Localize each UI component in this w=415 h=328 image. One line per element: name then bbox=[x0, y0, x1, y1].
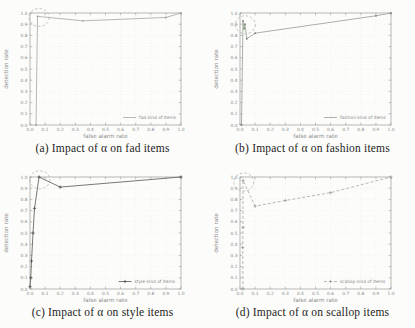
svg-text:false alarm rate: false alarm rate bbox=[293, 297, 338, 303]
svg-text:0.1: 0.1 bbox=[42, 127, 49, 132]
svg-text:0.3: 0.3 bbox=[231, 253, 238, 258]
svg-text:0.8: 0.8 bbox=[231, 33, 238, 38]
caption-c: (c) Impact of α on style items bbox=[0, 306, 205, 318]
svg-text:0.2: 0.2 bbox=[57, 291, 64, 296]
svg-text:0.3: 0.3 bbox=[21, 89, 28, 94]
svg-text:0.1: 0.1 bbox=[21, 111, 28, 116]
figure-panel-a: 0.00.00.10.10.20.20.30.30.40.40.50.50.60… bbox=[0, 0, 205, 162]
svg-text:0.7: 0.7 bbox=[132, 127, 139, 132]
svg-text:0.2: 0.2 bbox=[267, 291, 274, 296]
svg-text:0.1: 0.1 bbox=[42, 291, 49, 296]
svg-text:0.0: 0.0 bbox=[237, 127, 244, 132]
svg-text:0.3: 0.3 bbox=[21, 253, 28, 258]
svg-text:0.9: 0.9 bbox=[372, 291, 379, 296]
figure-panel-c: 0.00.00.10.10.20.20.30.30.40.40.50.50.60… bbox=[0, 164, 205, 326]
svg-text:0.7: 0.7 bbox=[231, 208, 238, 213]
svg-text:1.0: 1.0 bbox=[21, 175, 28, 180]
chart-fad-items: 0.00.00.10.10.20.20.30.30.40.40.50.50.60… bbox=[0, 0, 205, 140]
svg-text:detection rate: detection rate bbox=[3, 213, 9, 253]
svg-text:0.5: 0.5 bbox=[312, 291, 319, 296]
svg-text:scallop kind of items: scallop kind of items bbox=[340, 279, 386, 284]
svg-text:0.3: 0.3 bbox=[231, 89, 238, 94]
svg-text:0.6: 0.6 bbox=[231, 55, 238, 60]
svg-text:1.0: 1.0 bbox=[388, 291, 395, 296]
svg-text:0.6: 0.6 bbox=[117, 127, 124, 132]
svg-text:0.0: 0.0 bbox=[21, 123, 28, 128]
svg-text:0.9: 0.9 bbox=[162, 291, 169, 296]
svg-text:0.7: 0.7 bbox=[21, 44, 28, 49]
svg-text:0.0: 0.0 bbox=[231, 123, 238, 128]
svg-text:0.0: 0.0 bbox=[21, 287, 28, 292]
svg-text:false alarm rate: false alarm rate bbox=[83, 297, 128, 303]
svg-text:fashion kind of items: fashion kind of items bbox=[340, 115, 387, 120]
svg-text:0.5: 0.5 bbox=[312, 127, 319, 132]
svg-text:0.4: 0.4 bbox=[87, 291, 94, 296]
svg-text:0.0: 0.0 bbox=[27, 127, 34, 132]
svg-text:1.0: 1.0 bbox=[178, 291, 185, 296]
svg-text:0.2: 0.2 bbox=[267, 127, 274, 132]
svg-text:0.6: 0.6 bbox=[327, 291, 334, 296]
svg-text:1.0: 1.0 bbox=[178, 127, 185, 132]
caption-d: (d) Impact of α on scallop items bbox=[210, 306, 415, 318]
svg-text:0.6: 0.6 bbox=[21, 55, 28, 60]
svg-text:0.8: 0.8 bbox=[357, 127, 364, 132]
svg-text:0.7: 0.7 bbox=[132, 291, 139, 296]
svg-text:0.3: 0.3 bbox=[72, 127, 79, 132]
svg-text:0.1: 0.1 bbox=[252, 127, 259, 132]
svg-text:0.0: 0.0 bbox=[231, 287, 238, 292]
svg-text:0.9: 0.9 bbox=[231, 22, 238, 27]
chart-style-items: 0.00.00.10.10.20.20.30.30.40.40.50.50.60… bbox=[0, 164, 205, 304]
svg-text:fad kind of items: fad kind of items bbox=[139, 115, 177, 120]
svg-text:0.3: 0.3 bbox=[282, 127, 289, 132]
svg-text:0.9: 0.9 bbox=[372, 127, 379, 132]
svg-text:0.8: 0.8 bbox=[357, 291, 364, 296]
svg-text:1.0: 1.0 bbox=[231, 11, 238, 16]
svg-text:0.4: 0.4 bbox=[87, 127, 94, 132]
svg-text:0.2: 0.2 bbox=[231, 264, 238, 269]
svg-text:0.8: 0.8 bbox=[147, 127, 154, 132]
svg-text:0.5: 0.5 bbox=[102, 291, 109, 296]
svg-text:0.2: 0.2 bbox=[21, 100, 28, 105]
svg-text:0.4: 0.4 bbox=[297, 127, 304, 132]
svg-text:0.7: 0.7 bbox=[21, 208, 28, 213]
svg-text:0.5: 0.5 bbox=[21, 231, 28, 236]
chart-scallop-items: 0.00.00.10.10.20.20.30.30.40.40.50.50.60… bbox=[210, 164, 415, 304]
svg-text:0.3: 0.3 bbox=[72, 291, 79, 296]
svg-text:0.2: 0.2 bbox=[21, 264, 28, 269]
svg-text:detection rate: detection rate bbox=[3, 49, 9, 89]
svg-text:0.4: 0.4 bbox=[297, 291, 304, 296]
svg-text:0.8: 0.8 bbox=[147, 291, 154, 296]
svg-text:0.7: 0.7 bbox=[342, 291, 349, 296]
svg-text:false alarm rate: false alarm rate bbox=[83, 133, 128, 139]
svg-text:0.1: 0.1 bbox=[231, 111, 238, 116]
svg-text:0.9: 0.9 bbox=[21, 186, 28, 191]
svg-text:0.8: 0.8 bbox=[21, 33, 28, 38]
svg-text:0.4: 0.4 bbox=[231, 78, 238, 83]
svg-text:0.6: 0.6 bbox=[327, 127, 334, 132]
svg-text:0.8: 0.8 bbox=[21, 197, 28, 202]
caption-a: (a) Impact of α on fad items bbox=[0, 142, 205, 154]
svg-text:0.6: 0.6 bbox=[117, 291, 124, 296]
svg-text:0.9: 0.9 bbox=[162, 127, 169, 132]
svg-text:0.6: 0.6 bbox=[231, 219, 238, 224]
svg-text:0.5: 0.5 bbox=[231, 231, 238, 236]
svg-text:0.0: 0.0 bbox=[27, 291, 34, 296]
figure-panel-d: 0.00.00.10.10.20.20.30.30.40.40.50.50.60… bbox=[210, 164, 415, 326]
svg-text:false alarm rate: false alarm rate bbox=[293, 133, 338, 139]
svg-text:0.4: 0.4 bbox=[231, 242, 238, 247]
svg-text:0.1: 0.1 bbox=[252, 291, 259, 296]
svg-text:0.6: 0.6 bbox=[21, 219, 28, 224]
svg-text:style kind of items: style kind of items bbox=[135, 279, 176, 284]
svg-text:0.5: 0.5 bbox=[21, 67, 28, 72]
svg-text:1.0: 1.0 bbox=[21, 11, 28, 16]
svg-text:0.4: 0.4 bbox=[21, 242, 28, 247]
svg-text:0.5: 0.5 bbox=[102, 127, 109, 132]
svg-text:0.8: 0.8 bbox=[231, 197, 238, 202]
svg-text:0.3: 0.3 bbox=[282, 291, 289, 296]
svg-text:0.1: 0.1 bbox=[21, 275, 28, 280]
svg-text:0.1: 0.1 bbox=[231, 275, 238, 280]
svg-text:0.7: 0.7 bbox=[342, 127, 349, 132]
svg-text:detection rate: detection rate bbox=[213, 213, 219, 253]
svg-text:0.2: 0.2 bbox=[231, 100, 238, 105]
figure-panel-b: 0.00.00.10.10.20.20.30.30.40.40.50.50.60… bbox=[210, 0, 415, 162]
